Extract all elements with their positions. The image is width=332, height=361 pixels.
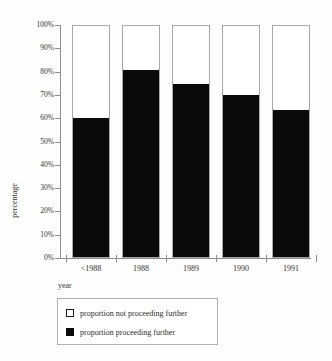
plot-area [66,25,309,258]
x-axis-title: year [58,281,72,290]
x-axis-tick [166,255,167,262]
y-axis-tick-labels: 100%90%80%70%60%50%40%30%20%10%0% [16,0,54,361]
y-axis-tick-label: 20% [20,207,54,215]
x-axis-tick [116,255,117,262]
y-axis-tick [55,188,61,189]
y-axis-tick-label: 10% [20,231,54,239]
bar-segment-proceeding [123,70,159,257]
bar-1988 [72,25,110,258]
y-axis-tick [55,258,61,259]
y-axis-tick [55,48,61,49]
legend-item-not-proceeding: proportion not proceeding further [66,306,187,320]
bar-segment-proceeding [273,110,309,257]
y-axis-tick [55,118,61,119]
legend-label: proportion proceeding further [80,328,175,337]
legend-swatch-black-square [66,328,74,336]
stacked-bar-chart-figure: 100%90%80%70%60%50%40%30%20%10%0% percen… [0,0,332,361]
y-axis-tick-label: 70% [20,91,54,99]
bar-segment-proceeding [173,84,209,257]
legend-item-proceeding: proportion proceeding further [66,325,175,339]
bar-1988 [122,25,160,258]
bar-1991 [272,25,310,258]
bar-segment-proceeding [73,118,109,257]
y-axis-tick [55,165,61,166]
y-axis-tick-label: 50% [20,138,54,146]
y-axis-tick [55,95,61,96]
bar-1990 [222,25,260,258]
x-axis-tick [266,255,267,262]
x-axis-tick [216,255,217,262]
x-axis-tick-label: 1991 [261,264,321,274]
x-axis-tick [316,255,317,262]
y-axis-tick-label: 90% [20,44,54,52]
y-axis-tick [55,142,61,143]
legend-swatch-white-square [66,309,74,317]
x-axis-line [55,258,311,259]
y-axis-tick [55,211,61,212]
x-axis-tick [66,255,67,262]
y-axis-tick-label: 40% [20,161,54,169]
y-axis-tick [55,235,61,236]
y-axis-tick-label: 30% [20,184,54,192]
bar-segment-proceeding [223,95,259,257]
y-axis-tick-label: 0% [20,254,54,262]
chart-legend: proportion not proceeding further propor… [57,298,218,345]
y-axis-tick-label: 80% [20,68,54,76]
y-axis-tick [55,25,61,26]
bar-1989 [172,25,210,258]
legend-label: proportion not proceeding further [80,309,187,318]
y-axis-tick [55,72,61,73]
y-axis-tick-label: 60% [20,114,54,122]
y-axis-tick-label: 100% [20,21,54,29]
y-axis-title: percentage [10,171,19,231]
